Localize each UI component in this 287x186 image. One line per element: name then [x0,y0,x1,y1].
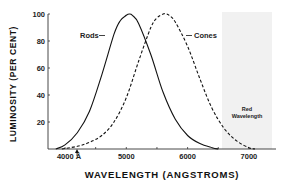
red-wavelength-region [222,12,272,149]
y-tick-label: 100 [32,10,45,19]
y-tick-label: 20 [37,118,45,127]
red-wavelength-label-2: Wavelength [232,113,263,119]
x-tick-label: 7000 [241,152,258,161]
x-tick-label: 6000 [179,152,196,161]
rods-label: Rods [80,31,99,40]
y-tick-label: 40 [37,91,45,100]
y-tick-label: 60 [37,64,45,73]
x-axis-title: WAVELENGTH (ANGSTROMS) [85,169,240,180]
x-tick-label: 5000 [118,152,135,161]
x-tick-label: 4000 Å [57,152,82,161]
red-wavelength-label-1: Red [242,106,252,112]
luminosity-chart: 204060801004000 Å500060007000 Rods Cones… [0,0,287,186]
cones-label: Cones [194,31,217,40]
y-tick-label: 80 [37,37,45,46]
y-axis-title: LUMINOSITY (PER CENT) [8,26,18,142]
